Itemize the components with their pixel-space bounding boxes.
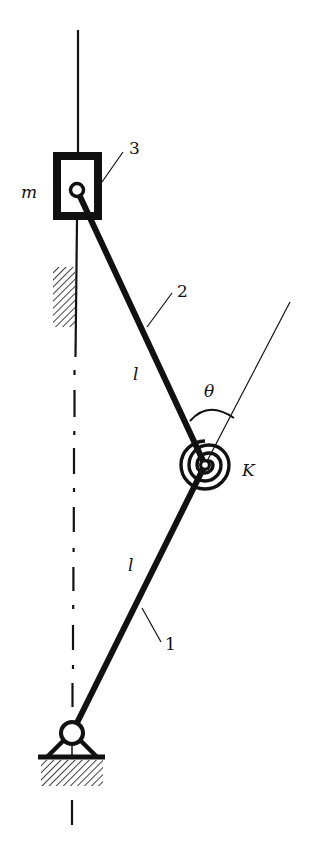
leader-2 <box>147 293 172 327</box>
slider-pin <box>71 184 84 197</box>
angle-arc <box>190 410 234 421</box>
spring-label: K <box>241 460 256 480</box>
link-1 <box>72 465 205 733</box>
link-2 <box>77 190 205 465</box>
slider-block <box>57 156 98 216</box>
pivot-pin <box>61 722 83 744</box>
mechanism-diagram: m 3 2 l θ K l 1 <box>0 0 331 842</box>
hatched-wall <box>53 267 75 327</box>
mass-label: m <box>21 182 37 202</box>
leader-3 <box>102 152 123 182</box>
leader-1 <box>142 608 161 642</box>
angle-label: θ <box>204 381 214 401</box>
link1-number-label: 1 <box>165 634 176 654</box>
torsional-spring-icon <box>181 441 229 489</box>
link2-number-label: 2 <box>177 281 188 301</box>
link2-length-label: l <box>133 364 138 384</box>
slider-number-label: 3 <box>129 138 140 158</box>
link1-length-label: l <box>128 555 133 575</box>
ground-hatch <box>41 760 103 786</box>
ground-pivot <box>38 722 105 786</box>
reference-line <box>205 302 290 465</box>
